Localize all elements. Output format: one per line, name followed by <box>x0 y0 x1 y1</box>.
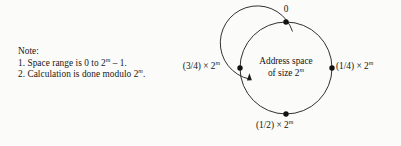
node-label-left-text: (3/4) × 2 <box>183 61 216 71</box>
figure-canvas: Note: 1. Space range is 0 to 2m – 1. 2. … <box>0 0 401 146</box>
node-label-top-text: 0 <box>284 4 289 14</box>
ring-center-line-2: of size 2m <box>243 68 329 80</box>
note-line-2: 2. Calculation is done modulo 2m. <box>18 69 188 81</box>
note-line-1-suffix: – 1. <box>110 58 127 68</box>
node-label-bottom-exponent: m <box>289 118 294 125</box>
ring-center-line-1: Address space <box>243 56 329 68</box>
note-line-2-prefix: 2. Calculation is done modulo 2 <box>18 69 138 79</box>
address-space-ring-diagram: 0 (1/4) × 2m (1/2) × 2m (3/4) × 2m Addre… <box>180 0 401 146</box>
node-label-left-exponent: m <box>215 59 220 66</box>
note-line-1: 1. Space range is 0 to 2m – 1. <box>18 58 188 70</box>
node-dot-top <box>283 19 288 24</box>
node-label-bottom-text: (1/2) × 2 <box>256 120 289 130</box>
node-label-right: (1/4) × 2m <box>336 61 373 72</box>
node-label-right-exponent: m <box>369 59 374 66</box>
note-block: Note: 1. Space range is 0 to 2m – 1. 2. … <box>18 46 188 81</box>
note-line-2-suffix: . <box>143 69 145 79</box>
node-dot-right <box>329 65 334 70</box>
node-dot-left <box>237 65 242 70</box>
node-label-top: 0 <box>280 4 292 15</box>
node-label-bottom: (1/2) × 2m <box>256 120 293 131</box>
node-dot-bottom <box>283 111 288 116</box>
node-label-left: (3/4) × 2m <box>183 61 220 72</box>
ring-center-line-2-exponent: m <box>299 65 304 72</box>
ring-center-caption: Address space of size 2m <box>243 56 329 79</box>
note-heading: Note: <box>18 46 188 58</box>
ring-center-line-2-prefix: of size 2 <box>268 68 300 78</box>
note-line-1-prefix: 1. Space range is 0 to 2 <box>18 58 106 68</box>
node-label-right-text: (1/4) × 2 <box>336 61 369 71</box>
